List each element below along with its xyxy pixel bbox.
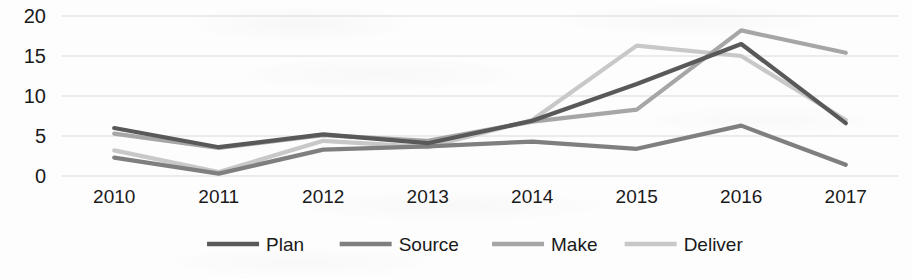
legend-label-make: Make (551, 234, 597, 255)
x-tick-label: 2012 (302, 186, 344, 207)
x-tick-label: 2011 (198, 186, 239, 207)
y-tick-label: 15 (24, 45, 46, 67)
chart-legend: PlanSourceMakeDeliver (207, 234, 743, 255)
series-line-deliver (114, 46, 846, 172)
legend-label-deliver: Deliver (684, 234, 744, 255)
y-tick-label: 10 (24, 85, 46, 107)
x-tick-label: 2017 (825, 186, 867, 207)
legend-label-source: Source (399, 234, 459, 255)
legend-label-plan: Plan (266, 234, 304, 255)
y-tick-label: 5 (35, 125, 46, 147)
y-axis-tick-labels: 20151050 (24, 5, 46, 187)
line-chart: 20151050 2010201120122013201420152016201… (0, 0, 912, 279)
x-tick-label: 2016 (720, 186, 762, 207)
x-tick-label: 2013 (407, 186, 449, 207)
chart-canvas: 20151050 2010201120122013201420152016201… (0, 0, 912, 279)
y-tick-label: 20 (24, 5, 46, 27)
series-lines (114, 30, 846, 173)
x-tick-label: 2010 (93, 186, 135, 207)
y-tick-label: 0 (35, 165, 46, 187)
x-tick-label: 2015 (616, 186, 658, 207)
gridlines (62, 16, 898, 176)
x-tick-label: 2014 (511, 186, 554, 207)
x-axis-tick-labels: 20102011201220132014201520162017 (93, 186, 867, 207)
